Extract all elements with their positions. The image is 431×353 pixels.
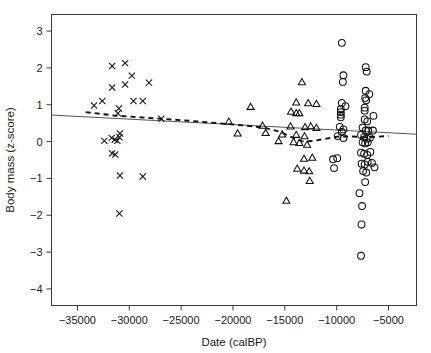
x-tick-label: −20000 xyxy=(214,314,251,326)
point-cross xyxy=(146,80,152,86)
point-triangle xyxy=(294,165,301,171)
point-circle xyxy=(340,72,347,79)
x-tick-label: −35000 xyxy=(59,314,96,326)
point-triangle xyxy=(293,99,300,105)
point-triangle xyxy=(298,79,305,85)
point-triangle xyxy=(247,103,254,109)
x-tick-label: −25000 xyxy=(163,314,200,326)
point-triangle xyxy=(300,155,307,161)
x-tick-label: −10000 xyxy=(318,314,355,326)
y-tick-label: 2 xyxy=(36,62,42,74)
point-cross xyxy=(91,102,97,108)
point-cross xyxy=(140,173,146,179)
point-cross xyxy=(129,73,135,79)
y-tick-label: −1 xyxy=(30,172,43,184)
point-circle xyxy=(334,155,341,162)
y-tick-label: 1 xyxy=(36,99,42,111)
point-triangle xyxy=(293,131,300,137)
point-circle xyxy=(362,64,369,71)
point-triangle xyxy=(259,122,266,128)
y-tick-label: −2 xyxy=(30,209,43,221)
point-triangle xyxy=(275,137,282,143)
point-cross xyxy=(116,210,122,216)
point-circle xyxy=(359,203,366,210)
point-triangle xyxy=(305,100,312,106)
trend-lines xyxy=(52,112,417,141)
x-axis-title: Date (calBP) xyxy=(201,336,266,348)
data-points xyxy=(91,39,378,259)
point-triangle xyxy=(306,177,313,183)
point-triangle xyxy=(225,118,232,124)
x-tick-label: −30000 xyxy=(111,314,148,326)
point-circle xyxy=(363,97,370,104)
scatter-plot: −35000−30000−25000−20000−15000−10000−500… xyxy=(0,0,431,353)
series-late-period xyxy=(330,39,378,259)
point-triangle xyxy=(283,197,290,203)
point-cross xyxy=(122,81,128,87)
point-cross xyxy=(115,110,121,116)
series-early-period xyxy=(91,60,165,216)
x-tick-label: −5000 xyxy=(373,314,404,326)
point-circle xyxy=(338,39,345,46)
point-triangle xyxy=(313,100,320,106)
point-triangle xyxy=(234,130,241,136)
point-circle xyxy=(370,112,377,119)
x-tick-label: −15000 xyxy=(266,314,303,326)
y-tick-label: −3 xyxy=(30,246,43,258)
y-tick-label: −4 xyxy=(30,283,43,295)
point-cross xyxy=(101,138,107,144)
x-axis-ticks: −35000−30000−25000−20000−15000−10000−500… xyxy=(59,306,404,326)
point-triangle xyxy=(309,154,316,160)
point-circle xyxy=(370,127,377,134)
point-cross xyxy=(140,98,146,104)
y-tick-label: 3 xyxy=(36,25,42,37)
point-cross xyxy=(99,98,105,104)
y-axis-title: Body mass (z-score) xyxy=(4,107,16,213)
axis-titles: Date (calBP)Body mass (z-score) xyxy=(4,107,267,347)
point-cross xyxy=(122,60,128,66)
point-triangle xyxy=(290,139,297,145)
chart-figure: −35000−30000−25000−20000−15000−10000−500… xyxy=(0,0,431,353)
y-tick-label: 0 xyxy=(36,136,42,148)
point-triangle xyxy=(307,123,314,129)
point-triangle xyxy=(262,129,269,135)
point-circle xyxy=(339,79,346,86)
series-mid-period xyxy=(225,79,320,204)
point-circle xyxy=(363,68,370,75)
point-circle xyxy=(331,165,338,172)
y-axis-ticks: 3210−1−2−3−4 xyxy=(30,25,52,295)
point-cross xyxy=(130,98,136,104)
point-triangle xyxy=(301,133,308,139)
point-cross xyxy=(117,172,123,178)
point-cross xyxy=(109,63,115,69)
point-circle xyxy=(362,179,369,186)
point-circle xyxy=(358,252,365,259)
point-circle xyxy=(358,221,365,228)
point-circle xyxy=(356,190,363,197)
point-cross xyxy=(109,84,115,90)
